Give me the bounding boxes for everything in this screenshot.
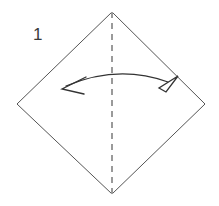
- origami-diagram-canvas: 1: [0, 0, 219, 206]
- right-hollow-triangle-arrowhead-icon: [159, 76, 178, 92]
- step-number-label: 1: [33, 25, 42, 44]
- origami-diagram-svg: 1: [0, 0, 219, 206]
